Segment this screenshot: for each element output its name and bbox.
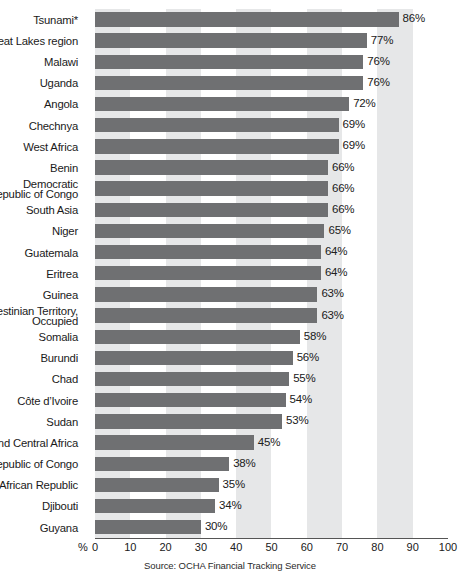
bar xyxy=(95,76,363,90)
bar-value-label: 64% xyxy=(325,244,347,259)
x-tick-label: 0 xyxy=(92,540,98,554)
category-label: Benin xyxy=(0,163,78,174)
bar-value-label: 30% xyxy=(205,519,227,534)
bar-row: Uganda76% xyxy=(95,72,448,93)
bar-row: West and Central Africa45% xyxy=(95,432,448,453)
bar xyxy=(95,478,219,492)
bar-row: Palestinian Territory, Occupied63% xyxy=(95,305,448,326)
bar-value-label: 66% xyxy=(332,160,354,175)
category-label: Central African Republic xyxy=(0,480,78,491)
x-tick-label: 100 xyxy=(439,540,457,554)
x-tick-label: 20 xyxy=(159,540,171,554)
bar-value-label: 34% xyxy=(219,498,241,513)
x-tick-label: 30 xyxy=(195,540,207,554)
bar-row: Côte d’Ivoire54% xyxy=(95,390,448,411)
bar-chart: Tsunami*86%Great Lakes region77%Malawi76… xyxy=(0,0,460,584)
category-label: Djibouti xyxy=(0,501,78,512)
category-label: Malawi xyxy=(0,57,78,68)
x-tick-label: 40 xyxy=(230,540,242,554)
category-label: Guyana xyxy=(0,523,78,534)
x-tick-label: 10 xyxy=(124,540,136,554)
category-label: Palestinian Territory, Occupied xyxy=(0,306,78,327)
category-label: Tsunami* xyxy=(0,15,78,26)
bar-value-label: 53% xyxy=(286,413,308,428)
bar-value-label: 64% xyxy=(325,265,347,280)
bar-row: Benin66% xyxy=(95,157,448,178)
category-label: Chechnya xyxy=(0,121,78,132)
bar-value-label: 65% xyxy=(328,223,350,238)
bar-value-label: 86% xyxy=(403,11,425,26)
bar xyxy=(95,245,321,259)
bar-row: Djibouti34% xyxy=(95,496,448,517)
bar-row: Central African Republic35% xyxy=(95,475,448,496)
bar xyxy=(95,224,324,238)
bar xyxy=(95,351,293,365)
bar xyxy=(95,330,300,344)
x-tick-label: 60 xyxy=(301,540,313,554)
x-tick-label: 90 xyxy=(407,540,419,554)
bar-value-label: 45% xyxy=(258,435,280,450)
category-label: Côte d’Ivoire xyxy=(0,396,78,407)
x-tick-label: 70 xyxy=(336,540,348,554)
bar xyxy=(95,520,201,534)
bar-value-label: 76% xyxy=(367,75,389,90)
bar-value-label: 56% xyxy=(297,350,319,365)
x-tick-label: 80 xyxy=(371,540,383,554)
category-label: Somalia xyxy=(0,332,78,343)
bar-row: Great Lakes region77% xyxy=(95,30,448,51)
source-note: Source: OCHA Financial Tracking Service xyxy=(0,560,460,572)
category-label: Angola xyxy=(0,99,78,110)
bar xyxy=(95,393,286,407)
category-label: Niger xyxy=(0,226,78,237)
bar xyxy=(95,435,254,449)
bar-value-label: 38% xyxy=(233,456,255,471)
bar xyxy=(95,287,317,301)
plot-area: Tsunami*86%Great Lakes region77%Malawi76… xyxy=(95,9,448,538)
bar xyxy=(95,372,289,386)
category-label: Republic of Congo xyxy=(0,459,78,470)
bar-value-label: 69% xyxy=(343,117,365,132)
bar xyxy=(95,97,349,111)
bar-row: Guatemala64% xyxy=(95,242,448,263)
bar-row: Angola72% xyxy=(95,94,448,115)
bar-value-label: 77% xyxy=(371,33,393,48)
bar xyxy=(95,55,363,69)
bar-row: Malawi76% xyxy=(95,51,448,72)
bar-row: Eritrea64% xyxy=(95,263,448,284)
category-label: South Asia xyxy=(0,205,78,216)
bar-rows: Tsunami*86%Great Lakes region77%Malawi76… xyxy=(95,9,448,538)
x-axis-line xyxy=(95,538,448,539)
bar xyxy=(95,33,367,47)
category-label: Chad xyxy=(0,374,78,385)
bar-row: Niger65% xyxy=(95,221,448,242)
bar xyxy=(95,499,215,513)
category-label: Burundi xyxy=(0,353,78,364)
category-label: Guatemala xyxy=(0,248,78,259)
bar-row: West Africa69% xyxy=(95,136,448,157)
bar-value-label: 72% xyxy=(353,96,375,111)
category-label: West Africa xyxy=(0,142,78,153)
bar-value-label: 66% xyxy=(332,202,354,217)
bar-value-label: 35% xyxy=(223,477,245,492)
category-label: Great Lakes region xyxy=(0,36,78,47)
bar xyxy=(95,118,339,132)
x-axis-ticks: 0102030405060708090100 xyxy=(0,540,460,556)
category-label: Sudan xyxy=(0,417,78,428)
bar-value-label: 54% xyxy=(290,392,312,407)
bar-row: Chechnya69% xyxy=(95,115,448,136)
bar-row: South Asia66% xyxy=(95,199,448,220)
bar xyxy=(95,266,321,280)
bar xyxy=(95,203,328,217)
bar xyxy=(95,12,399,26)
bar xyxy=(95,308,317,322)
bar-value-label: 58% xyxy=(304,329,326,344)
bar xyxy=(95,139,339,153)
bar-value-label: 76% xyxy=(367,54,389,69)
bar-value-label: 63% xyxy=(321,308,343,323)
bar xyxy=(95,457,229,471)
category-label: Democratic Republic of Congo xyxy=(0,179,78,200)
bar-row: Sudan53% xyxy=(95,411,448,432)
bar xyxy=(95,160,328,174)
category-label: Guinea xyxy=(0,290,78,301)
bar-value-label: 63% xyxy=(321,286,343,301)
